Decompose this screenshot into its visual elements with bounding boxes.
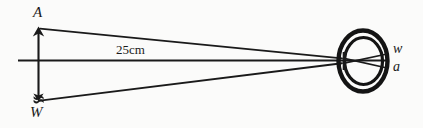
label-image-bottom-a: a (393, 60, 400, 74)
eye-pupil-arc (345, 50, 346, 72)
label-object-distance: 25cm (116, 43, 145, 56)
label-object-bottom-W: W (30, 105, 43, 120)
label-image-top-w: w (393, 42, 402, 56)
ray-upper-from-object-top (40, 29, 342, 59)
ray-lower-from-object-bottom (40, 63, 342, 100)
ray-diagram-figure: A W 25cm w a (0, 0, 423, 128)
refracted-ray-to-retina-upper (343, 54, 387, 63)
label-object-top-A: A (33, 5, 42, 20)
ray-diagram-canvas (0, 0, 423, 128)
